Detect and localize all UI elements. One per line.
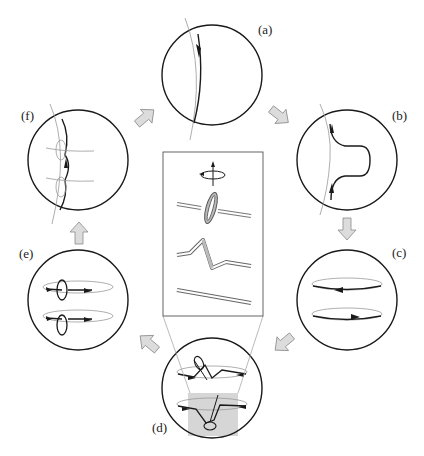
arrow-d-to-e-icon <box>134 329 162 357</box>
panel-e <box>28 250 128 350</box>
arrow-f-to-a-icon <box>131 103 159 131</box>
panel-label-d: (d) <box>152 420 167 436</box>
inset-magnification <box>163 152 263 316</box>
dynamo-cycle-diagram: (a) (b) (c) (d) (e) (f) <box>0 0 424 456</box>
arrow-c-to-d-icon <box>269 329 297 357</box>
panel-c <box>297 250 397 350</box>
panel-a <box>162 18 262 140</box>
arrow-a-to-b-icon <box>265 102 293 130</box>
panel-label-f: (f) <box>21 108 34 124</box>
arrow-b-to-c-icon <box>338 218 356 240</box>
panel-label-b: (b) <box>392 108 407 124</box>
panel-b <box>297 104 397 215</box>
panel-label-c: (c) <box>392 245 406 261</box>
panel-d <box>162 316 263 438</box>
arrow-e-to-f-icon <box>70 222 88 244</box>
panel-label-a: (a) <box>258 22 272 38</box>
panel-label-e: (e) <box>19 246 33 262</box>
panel-f <box>28 104 128 224</box>
diagram-canvas <box>0 0 424 456</box>
omega-loop <box>330 124 370 200</box>
